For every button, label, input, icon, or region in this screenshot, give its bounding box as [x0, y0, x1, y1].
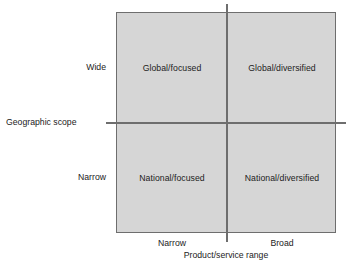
quadrant-top-right: Global/diversified — [227, 13, 337, 123]
quadrant-top-left: Global/focused — [117, 13, 227, 123]
y-axis-tick-wide: Wide — [0, 62, 106, 72]
y-axis-tick-narrow: Narrow — [0, 172, 106, 182]
quadrant-bottom-left-label: National/focused — [139, 173, 205, 183]
quadrant-bottom-left: National/focused — [117, 123, 227, 233]
y-axis-title: Geographic scope — [6, 117, 77, 127]
x-axis-tick-broad: Broad — [227, 238, 337, 248]
x-axis-title: Product/service range — [116, 250, 336, 260]
quadrant-bottom-right-label: National/diversified — [245, 173, 319, 183]
quadrant-top-right-label: Global/diversified — [248, 63, 316, 73]
quadrant-bottom-right: National/diversified — [227, 123, 337, 233]
quadrant-top-left-label: Global/focused — [143, 63, 202, 73]
strategy-matrix-diagram: Global/focused Global/diversified Nation… — [0, 0, 350, 276]
x-axis-tick-narrow: Narrow — [117, 238, 227, 248]
